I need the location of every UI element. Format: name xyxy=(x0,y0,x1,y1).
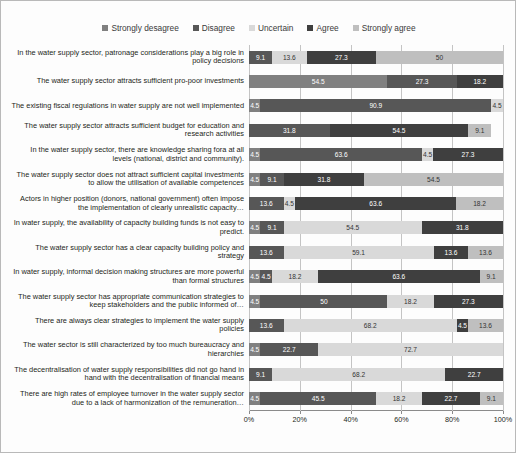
stacked-bar[interactable]: 4.54.518.263.69.1 xyxy=(249,270,503,283)
bar-segment[interactable]: 72.7 xyxy=(318,343,503,356)
bar-segment[interactable]: 4.5 xyxy=(249,343,260,356)
bar-segment[interactable]: 63.6 xyxy=(260,148,422,161)
bar-segment[interactable]: 4.5 xyxy=(249,392,260,405)
stacked-bar[interactable]: 4.55018.227.3 xyxy=(249,295,503,308)
legend-item-3[interactable]: Agree xyxy=(307,23,338,33)
x-axis-tick-label: 40% xyxy=(343,415,357,424)
bar-segment[interactable]: 50 xyxy=(260,295,387,308)
bar-segment[interactable]: 13.6 xyxy=(272,51,307,64)
bar-segment[interactable]: 13.6 xyxy=(249,246,284,259)
bar-segment[interactable]: 9.1 xyxy=(480,392,503,405)
stacked-bar[interactable]: 13.64.563.618.2 xyxy=(249,197,503,210)
bar-segment[interactable]: 13.6 xyxy=(434,246,469,259)
stacked-bar[interactable]: 4.59.154.531.8 xyxy=(249,221,503,234)
bar-segment[interactable]: 31.8 xyxy=(249,124,330,137)
x-axis-tick xyxy=(401,411,402,414)
bar-segment[interactable]: 4.5 xyxy=(284,197,295,210)
bar-track: 9.168.222.7 xyxy=(249,362,503,386)
bar-segment[interactable]: 54.5 xyxy=(330,124,468,137)
stacked-bar[interactable]: 4.563.64.527.3 xyxy=(249,148,503,161)
category-label: There are always clear strategies to imp… xyxy=(10,317,249,334)
category-label: The water supply sector does not attract… xyxy=(10,171,249,188)
stacked-bar[interactable]: 4.590.94.5 xyxy=(249,99,503,112)
bar-segment[interactable]: 4.5 xyxy=(249,221,260,234)
bar-segment[interactable]: 54.5 xyxy=(364,173,502,186)
bar-segment[interactable]: 13.6 xyxy=(468,319,503,332)
bar-segment[interactable]: 54.5 xyxy=(249,75,387,88)
bar-track: 4.522.772.7 xyxy=(249,338,503,362)
bar-segment[interactable]: 18.2 xyxy=(456,197,502,210)
bar-segment[interactable]: 4.5 xyxy=(260,270,271,283)
legend-item-4[interactable]: Strongly agree xyxy=(353,23,416,33)
bar-track: 4.54.518.263.69.1 xyxy=(249,265,503,289)
bar-segment[interactable]: 27.3 xyxy=(387,75,456,88)
bar-segment[interactable]: 90.9 xyxy=(260,99,491,112)
bar-segment[interactable]: 63.6 xyxy=(295,197,457,210)
bar-segment[interactable]: 18.2 xyxy=(387,295,433,308)
bar-segment[interactable]: 27.3 xyxy=(433,148,502,161)
bar-segment[interactable]: 4.5 xyxy=(249,173,260,186)
chart-row: The water supply sector attracts suffici… xyxy=(10,69,508,93)
bar-segment[interactable]: 4.5 xyxy=(249,99,260,112)
legend-item-1[interactable]: Disagree xyxy=(193,23,235,33)
stacked-bar[interactable]: 4.59.131.854.5 xyxy=(249,173,503,186)
legend-label: Disagree xyxy=(202,23,235,33)
bar-segment[interactable]: 9.1 xyxy=(249,368,272,381)
stacked-bar[interactable]: 9.113.627.350 xyxy=(249,51,503,64)
bar-segment[interactable]: 45.5 xyxy=(260,392,376,405)
stacked-bar[interactable]: 13.659.113.613.6 xyxy=(249,246,503,259)
bar-segment[interactable]: 68.2 xyxy=(272,368,445,381)
bar-segment[interactable]: 9.1 xyxy=(260,221,283,234)
stacked-bar[interactable]: 54.527.318.2 xyxy=(249,75,503,88)
bar-segment[interactable]: 18.2 xyxy=(376,392,422,405)
x-axis-tick xyxy=(351,411,352,414)
bar-segment[interactable]: 50 xyxy=(376,51,503,64)
x-axis-tick-label: 80% xyxy=(445,415,459,424)
bar-segment[interactable]: 31.8 xyxy=(422,221,503,234)
stacked-bar[interactable]: 4.522.772.7 xyxy=(249,343,503,356)
bar-segment[interactable]: 4.5 xyxy=(457,319,468,332)
chart-row: In water supply, informal decision makin… xyxy=(10,265,508,289)
bar-segment[interactable]: 68.2 xyxy=(284,319,457,332)
stacked-bar[interactable]: 9.168.222.7 xyxy=(249,368,503,381)
bar-segment[interactable]: 4.5 xyxy=(249,148,260,161)
bar-segment[interactable]: 18.2 xyxy=(272,270,318,283)
bar-segment[interactable]: 13.6 xyxy=(468,246,503,259)
bar-segment[interactable]: 22.7 xyxy=(260,343,318,356)
x-axis: 0%20%40%60%80%100% xyxy=(249,411,503,431)
legend-item-2[interactable]: Uncertain xyxy=(249,23,294,33)
bar-segment[interactable]: 18.2 xyxy=(457,75,503,88)
legend-label: Uncertain xyxy=(258,23,294,33)
bar-segment[interactable]: 9.1 xyxy=(260,173,283,186)
legend-label: Agree xyxy=(316,23,338,33)
stacked-bar[interactable]: 13.668.24.513.6 xyxy=(249,319,503,332)
bar-segment[interactable]: 27.3 xyxy=(434,295,503,308)
bar-segment[interactable]: 4.5 xyxy=(422,148,433,161)
bar-segment[interactable]: 63.6 xyxy=(318,270,480,283)
x-axis-tick xyxy=(300,411,301,414)
bar-segment[interactable]: 4.5 xyxy=(249,270,260,283)
stacked-bar[interactable]: 4.545.518.222.79.1 xyxy=(249,392,503,405)
legend-item-0[interactable]: Strongly desagree xyxy=(102,23,178,33)
chart-row: In water supply, the availability of cap… xyxy=(10,216,508,240)
bar-segment[interactable]: 13.6 xyxy=(249,197,284,210)
bar-segment[interactable]: 4.5 xyxy=(491,99,502,112)
bar-segment[interactable]: 4.5 xyxy=(249,295,260,308)
bar-segment[interactable]: 59.1 xyxy=(284,246,434,259)
bar-segment[interactable]: 13.6 xyxy=(249,319,284,332)
chart-legend: Strongly desagreeDisagreeUncertainAgreeS… xyxy=(1,23,516,33)
bar-segment[interactable]: 22.7 xyxy=(445,368,503,381)
bar-segment[interactable]: 9.1 xyxy=(249,51,272,64)
bar-track: 13.64.563.618.2 xyxy=(249,191,503,215)
chart-row: The water supply sector has a clear capa… xyxy=(10,240,508,264)
bar-track: 4.563.64.527.3 xyxy=(249,143,503,167)
bar-segment[interactable]: 27.3 xyxy=(307,51,376,64)
bar-segment[interactable]: 31.8 xyxy=(284,173,365,186)
bar-segment[interactable]: 9.1 xyxy=(468,124,491,137)
bar-segment[interactable]: 9.1 xyxy=(480,270,503,283)
stacked-bar[interactable]: 31.854.59.1 xyxy=(249,124,503,137)
bar-segment[interactable]: 22.7 xyxy=(422,392,480,405)
chart-row: There are always clear strategies to imp… xyxy=(10,313,508,337)
bar-segment[interactable]: 54.5 xyxy=(284,221,422,234)
category-label: There are high rates of employee turnove… xyxy=(10,390,249,407)
